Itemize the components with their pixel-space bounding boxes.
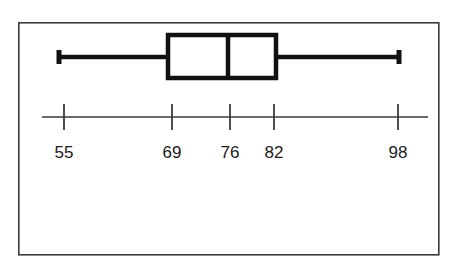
interquartile-box — [168, 35, 276, 78]
axis-label-q1: 69 — [163, 143, 182, 162]
axis-label-q3: 82 — [265, 143, 284, 162]
boxplot-canvas: 55 69 76 82 98 — [0, 0, 455, 275]
axis-label-minimum: 55 — [55, 143, 74, 162]
boxplot-figure: 55 69 76 82 98 — [0, 0, 455, 275]
axis-label-maximum: 98 — [389, 143, 408, 162]
axis-label-median: 76 — [221, 143, 240, 162]
